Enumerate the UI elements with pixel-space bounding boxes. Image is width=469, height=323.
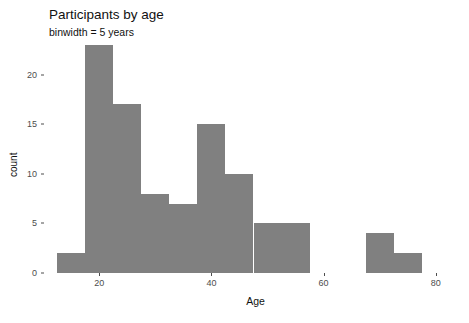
- y-axis-tick-mark: [41, 74, 44, 75]
- x-axis-tick-label: 80: [423, 278, 449, 288]
- x-axis-tick-mark: [436, 273, 437, 276]
- histogram-bar: [141, 194, 169, 273]
- x-axis-title-wrap: Age: [0, 295, 469, 307]
- histogram-bar: [254, 223, 282, 273]
- histogram-bar: [282, 223, 310, 273]
- y-axis-tick-mark: [41, 223, 44, 224]
- x-axis-title: Age: [246, 295, 265, 307]
- histogram-bar: [197, 124, 225, 273]
- x-axis-tick-mark: [211, 273, 212, 276]
- y-axis-tick-label: 20: [13, 70, 37, 80]
- histogram-plot: Participants by age binwidth = 5 years c…: [0, 0, 469, 323]
- histogram-bar: [366, 233, 394, 273]
- histogram-bar: [394, 253, 422, 273]
- histogram-bar: [169, 204, 197, 273]
- y-axis-tick-mark: [41, 124, 44, 125]
- x-axis-tick-label: 20: [86, 278, 112, 288]
- histogram-bar: [113, 104, 141, 273]
- plot-panel: [46, 45, 461, 273]
- y-axis-tick-label: 5: [13, 218, 37, 228]
- x-axis-tick-mark: [99, 273, 100, 276]
- x-axis-tick-mark: [324, 273, 325, 276]
- x-axis-tick-label: 60: [311, 278, 337, 288]
- y-axis-tick-label: 15: [13, 119, 37, 129]
- histogram-bar: [85, 45, 113, 273]
- histogram-bar: [225, 174, 253, 273]
- x-axis-tick-label: 40: [198, 278, 224, 288]
- y-axis-tick-label: 0: [13, 268, 37, 278]
- histogram-bar: [57, 253, 85, 273]
- y-axis-tick-mark: [41, 273, 44, 274]
- y-axis-tick-label: 10: [13, 169, 37, 179]
- y-axis-tick-mark: [41, 173, 44, 174]
